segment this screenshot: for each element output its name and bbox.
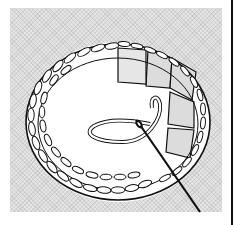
- stitched-ring-illustration: [0, 0, 234, 225]
